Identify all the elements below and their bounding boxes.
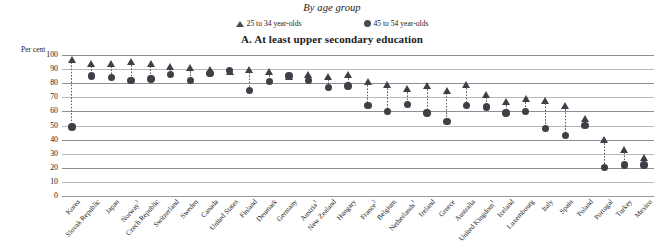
circle-marker [167, 71, 174, 78]
y-axis-tick-label: 50 [36, 120, 58, 129]
triangle-marker [541, 97, 549, 104]
circle-marker [463, 102, 470, 109]
triangle-marker [403, 85, 411, 92]
y-axis-tick-label: 10 [36, 176, 58, 185]
panel-title: A. At least upper secondary education [0, 33, 664, 45]
circle-marker [88, 72, 95, 79]
gridline [62, 97, 654, 98]
y-axis-tick-label: 20 [36, 162, 58, 171]
y-axis-tick-label: 40 [36, 134, 58, 143]
triangle-marker [443, 87, 451, 94]
circle-marker [108, 74, 115, 81]
circle-marker [404, 101, 411, 108]
circle-marker-icon [364, 20, 371, 27]
gridline [62, 55, 654, 56]
triangle-marker [462, 81, 470, 88]
x-axis-tick-label: Mexico [633, 198, 654, 220]
y-axis-tick-label: 90 [36, 64, 58, 73]
chart-subtitle: By age group [0, 2, 664, 13]
chart-root: By age group 25 to 34 year-olds 45 to 54… [0, 0, 664, 245]
circle-marker [364, 102, 371, 109]
y-axis-tick-label: 60 [36, 106, 58, 115]
connector-line [565, 106, 566, 136]
y-axis-tick-label: 30 [36, 148, 58, 157]
triangle-marker [265, 68, 273, 75]
chart-legend: 25 to 34 year-olds 45 to 54 year-olds [0, 19, 664, 28]
circle-marker [325, 84, 332, 91]
triangle-marker [482, 91, 490, 98]
circle-marker [246, 87, 253, 94]
y-axis-tick-label: 0 [36, 191, 58, 200]
gridline [62, 154, 654, 155]
triangle-marker [127, 58, 135, 65]
circle-marker [483, 103, 490, 110]
triangle-marker [304, 71, 312, 78]
circle-marker [640, 161, 647, 168]
x-axis-tick-label: Japan [104, 198, 121, 216]
triangle-marker [502, 98, 510, 105]
y-axis-tick-label: 100 [36, 50, 58, 59]
triangle-marker [522, 95, 530, 102]
y-axis-tick-label: 70 [36, 92, 58, 101]
triangle-marker [423, 82, 431, 89]
x-axis-tick-label: Sweden [179, 198, 200, 220]
gridline [62, 83, 654, 84]
triangle-marker [186, 64, 194, 71]
triangle-marker [226, 68, 234, 75]
circle-marker [443, 118, 450, 125]
legend-item-45-54: 45 to 54 year-olds [364, 19, 429, 28]
triangle-marker [147, 60, 155, 67]
circle-marker [384, 108, 391, 115]
circle-marker [502, 109, 509, 116]
x-axis-tick-label: Italy [541, 198, 556, 213]
connector-line [446, 90, 447, 121]
circle-marker [562, 132, 569, 139]
triangle-marker [344, 71, 352, 78]
triangle-marker [285, 73, 293, 80]
y-axis-tick-label: 80 [36, 78, 58, 87]
x-axis-tick-label: Turkey [615, 198, 635, 219]
triangle-marker [640, 154, 648, 161]
circle-marker [266, 78, 273, 85]
triangle-marker [166, 63, 174, 70]
circle-marker [423, 109, 430, 116]
gridline [62, 140, 654, 141]
legend-label-45-54: 45 to 54 year-olds [374, 19, 429, 28]
x-axis-tick-label: Hungary [335, 198, 358, 222]
triangle-marker [620, 146, 628, 153]
circle-marker [147, 75, 154, 82]
triangle-marker [600, 136, 608, 143]
circle-marker [127, 77, 134, 84]
circle-marker [68, 123, 75, 130]
legend-label-25-34: 25 to 34 year-olds [247, 19, 302, 28]
plot-area [62, 55, 654, 196]
x-axis-tick-label: Denmark [255, 198, 279, 223]
x-axis-tick-label: United Kingdom1 [456, 198, 498, 243]
connector-line [71, 59, 72, 127]
x-axis-tick-labels: KoreaSlovak RepublicJapanNorway1Czech Re… [62, 198, 654, 245]
triangle-marker [383, 81, 391, 88]
triangle-marker [324, 73, 332, 80]
legend-item-25-34: 25 to 34 year-olds [236, 19, 302, 28]
triangle-marker-icon [236, 21, 244, 27]
x-axis-tick-label: Portugal [592, 198, 614, 221]
x-axis-tick-label: Korea [64, 198, 82, 216]
gridline [62, 182, 654, 183]
circle-marker [581, 122, 588, 129]
circle-marker [542, 125, 549, 132]
circle-marker [344, 82, 351, 89]
circle-marker [621, 161, 628, 168]
gridline [62, 168, 654, 169]
circle-marker [601, 164, 608, 171]
triangle-marker [68, 56, 76, 63]
x-axis-tick-label: Ireland [417, 198, 437, 218]
triangle-marker [561, 102, 569, 109]
triangle-marker [581, 115, 589, 122]
triangle-marker [364, 78, 372, 85]
triangle-marker [206, 66, 214, 73]
triangle-marker [87, 60, 95, 67]
circle-marker [187, 77, 194, 84]
circle-marker [522, 108, 529, 115]
triangle-marker [107, 60, 115, 67]
x-axis-tick-label: Spain [558, 198, 575, 216]
